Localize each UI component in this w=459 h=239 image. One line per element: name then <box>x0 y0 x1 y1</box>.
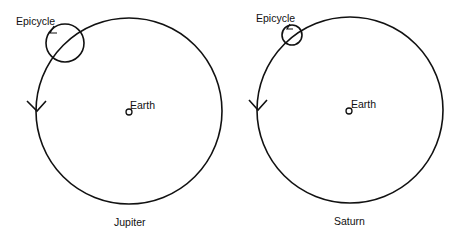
saturn-epicycle-label: Epicycle <box>256 12 295 24</box>
jupiter-deferent-circle <box>36 18 222 204</box>
jupiter-diagram: Epicycle Earth Jupiter <box>16 15 222 228</box>
saturn-diagram: Epicycle Earth Saturn <box>249 12 443 227</box>
epicycle-diagrams: Epicycle Earth Jupiter Epicycle Earth Sa… <box>0 0 459 239</box>
jupiter-earth-label: Earth <box>130 99 155 111</box>
saturn-deferent-circle <box>257 17 443 203</box>
jupiter-epicycle-label: Epicycle <box>16 15 55 27</box>
jupiter-caption: Jupiter <box>114 216 146 228</box>
saturn-caption: Saturn <box>334 215 365 227</box>
saturn-epicycle-circle <box>282 25 302 45</box>
saturn-earth-label: Earth <box>351 98 376 110</box>
